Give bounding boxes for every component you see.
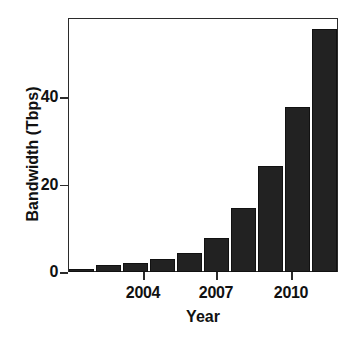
x-tick-label-2007: 2007 [186, 284, 246, 302]
bars-layer [68, 18, 338, 272]
x-tick-label-2004: 2004 [113, 284, 173, 302]
y-tick-label-0: 0 [49, 264, 58, 280]
y-tick-mark-0 [60, 272, 68, 274]
x-axis-label: Year [68, 308, 338, 326]
y-tick-mark-20 [60, 185, 68, 187]
x-tick-label-2010: 2010 [261, 284, 321, 302]
bar-chart-figure: Bandwidth (Tbps) 0 20 40 2004 2007 2010 … [0, 0, 354, 347]
x-tick-mark-2007 [216, 272, 218, 280]
bar [69, 269, 94, 272]
bar [204, 238, 229, 272]
y-tick-label-20: 20 [41, 177, 58, 193]
x-tick-mark-2010 [291, 272, 293, 280]
y-tick-mark-40 [60, 97, 68, 99]
bar [258, 166, 283, 272]
y-tick-label-40: 40 [41, 89, 58, 105]
bar [96, 265, 121, 272]
bar [285, 107, 310, 272]
bar [177, 253, 202, 272]
bar [150, 259, 175, 272]
x-tick-mark-2004 [143, 272, 145, 280]
bar [123, 263, 148, 272]
y-tick-labels: 0 20 40 [26, 0, 58, 347]
bar [231, 208, 256, 272]
bar [312, 29, 337, 272]
